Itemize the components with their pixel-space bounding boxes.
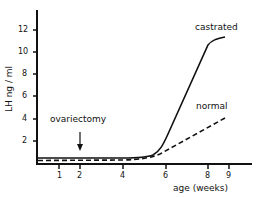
y-tick-label: 12 [18, 25, 28, 34]
ovariectomy-label: ovariectomy [50, 114, 106, 124]
y-axis-title: LH ng / ml [4, 66, 14, 112]
x-tick-label: 8 [205, 171, 210, 180]
x-tick-label: 2 [77, 171, 82, 180]
x-tick-label: 1 [57, 171, 62, 180]
y-tick-label: 6 [22, 91, 27, 100]
x-tick-label: 6 [163, 171, 168, 180]
x-axis-title: age (weeks) [173, 183, 228, 193]
y-tick-label: 4 [22, 114, 27, 123]
y-tick-label: 2 [22, 136, 27, 145]
x-tick-label: 9 [226, 171, 231, 180]
castrated-label: castrated [195, 22, 238, 32]
y-tick-label: 8 [22, 69, 27, 78]
ovariectomy-arrow-icon [77, 132, 83, 151]
x-tick-label: 4 [120, 171, 125, 180]
series-castrated-line [38, 37, 225, 158]
normal-label: normal [196, 101, 228, 111]
series-normal-line [38, 118, 225, 161]
y-tick-label: 10 [18, 47, 28, 56]
